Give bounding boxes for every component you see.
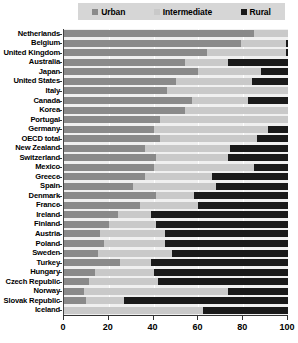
y-axis-label: United Kingdom <box>0 49 60 57</box>
bar-row <box>64 97 288 104</box>
bar-segment-intermediate <box>192 97 248 104</box>
y-axis-tick <box>59 186 62 187</box>
y-axis-label: Australia <box>0 58 60 66</box>
bar-segment-urban <box>64 297 86 304</box>
y-axis-label: Norway <box>0 287 60 295</box>
bar-row <box>64 135 288 142</box>
y-axis-tick <box>59 158 62 159</box>
y-axis-label: Portugal <box>0 116 60 124</box>
y-axis-tick <box>59 310 62 311</box>
y-axis-label: France <box>0 201 60 209</box>
bar-segment-urban <box>64 164 154 171</box>
bar-segment-intermediate <box>109 221 156 228</box>
y-axis-tick <box>59 101 62 102</box>
y-axis-tick <box>59 272 62 273</box>
bar-row <box>64 173 288 180</box>
y-axis-label: Austria <box>0 230 60 238</box>
bar-segment-urban <box>64 78 176 85</box>
y-axis-label: Czech Republic <box>0 278 60 286</box>
bar-segment-urban <box>64 278 89 285</box>
bar-segment-intermediate <box>120 259 151 266</box>
bar-segment-intermediate <box>84 288 227 295</box>
bar-segment-rural <box>172 250 288 257</box>
y-axis-tick <box>59 81 62 82</box>
bar-row <box>64 278 288 285</box>
y-axis-tick <box>59 224 62 225</box>
y-axis-label: Mexico <box>0 163 60 171</box>
y-axis-tick <box>59 62 62 63</box>
bar-row <box>64 230 288 237</box>
y-axis-label: United States <box>0 77 60 85</box>
chart-legend: Urban Intermediate Rural <box>78 3 285 20</box>
bar-row <box>64 259 288 266</box>
y-axis-tick <box>59 43 62 44</box>
bar-segment-urban <box>64 154 156 161</box>
bar-segment-rural <box>228 154 288 161</box>
bar-segment-rural <box>261 68 288 75</box>
bar-segment-rural <box>212 173 288 180</box>
bar-segment-rural <box>286 40 288 47</box>
y-axis-tick <box>59 148 62 149</box>
stacked-bar-chart: Urban Intermediate Rural NetherlandsBelg… <box>0 0 298 343</box>
bar-row <box>64 250 288 257</box>
y-axis-tick <box>59 205 62 206</box>
bar-segment-urban <box>64 116 160 123</box>
bar-row <box>64 116 288 123</box>
bar-segment-intermediate <box>160 116 288 123</box>
y-axis-label: Sweden <box>0 249 60 257</box>
bar-row <box>64 240 288 247</box>
y-axis-label: Germany <box>0 125 60 133</box>
bar-segment-urban <box>64 269 95 276</box>
bar-segment-rural <box>203 307 288 314</box>
bar-segment-intermediate <box>167 87 288 94</box>
bar-row <box>64 297 288 304</box>
bar-row <box>64 164 288 171</box>
y-axis-label: Ireland <box>0 211 60 219</box>
x-axis-tick <box>108 316 109 320</box>
bar-segment-intermediate <box>118 211 152 218</box>
y-axis-tick <box>59 301 62 302</box>
legend-entry-urban: Urban <box>92 7 125 17</box>
bar-segment-urban <box>64 183 133 190</box>
bar-row <box>64 59 288 66</box>
y-axis-label: Greece <box>0 173 60 181</box>
bar-segment-urban <box>64 145 145 152</box>
y-axis-tick <box>59 263 62 264</box>
bar-segment-urban <box>64 30 254 37</box>
bar-segment-rural <box>156 221 288 228</box>
bar-segment-rural <box>154 269 288 276</box>
bar-segment-intermediate <box>160 135 256 142</box>
y-axis-tick <box>59 234 62 235</box>
legend-swatch-rural-icon <box>241 9 247 15</box>
bar-segment-rural <box>165 230 288 237</box>
bar-row <box>64 145 288 152</box>
y-axis-tick <box>59 167 62 168</box>
y-axis-tick <box>59 253 62 254</box>
bar-segment-urban <box>64 221 109 228</box>
bar-segment-intermediate <box>145 173 212 180</box>
bar-segment-intermediate <box>198 68 261 75</box>
y-axis-label: Denmark <box>0 192 60 200</box>
bar-row <box>64 49 288 56</box>
bar-segment-urban <box>64 97 192 104</box>
bar-segment-urban <box>64 173 145 180</box>
bar-segment-urban <box>64 68 198 75</box>
y-axis-tick <box>59 244 62 245</box>
y-axis-tick <box>59 177 62 178</box>
bar-segment-urban <box>64 211 118 218</box>
y-axis-label: Spain <box>0 182 60 190</box>
bar-row <box>64 202 288 209</box>
legend-swatch-urban-icon <box>92 9 98 15</box>
bar-segment-intermediate <box>89 278 158 285</box>
y-axis-tick <box>59 53 62 54</box>
x-axis-label: 100 <box>279 322 294 332</box>
bar-segment-rural <box>248 97 288 104</box>
bar-segment-intermediate <box>133 183 216 190</box>
legend-entry-intermediate: Intermediate <box>154 7 212 17</box>
y-axis-tick <box>59 72 62 73</box>
bar-segment-rural <box>230 145 288 152</box>
bar-segment-rural <box>158 278 288 285</box>
bar-segment-rural <box>151 211 288 218</box>
bar-segment-rural <box>257 135 288 142</box>
y-axis-tick <box>59 91 62 92</box>
